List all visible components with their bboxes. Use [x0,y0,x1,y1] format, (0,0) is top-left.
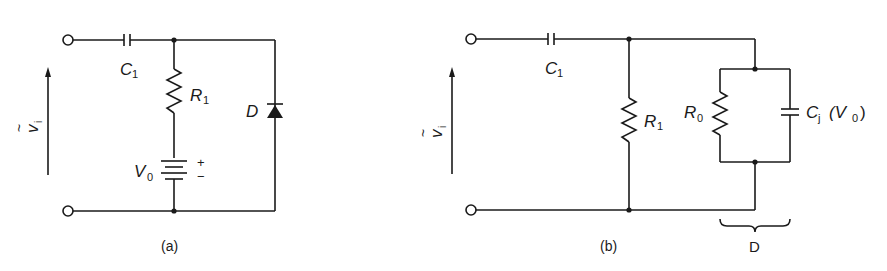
input-terminal-top [63,35,73,45]
input-voltage-label: v ~ i [11,121,44,133]
diode-bracket-label: D [749,238,760,255]
r0-label-sub: 0 [697,112,703,124]
capacitor-cj [781,109,799,115]
diode-brace [720,219,790,232]
r0-label: R [684,103,696,122]
cj-arg-label: (V [829,103,848,122]
c1-label-sub: 1 [557,67,563,79]
circuit-diagram: v ~ i C 1 R 1 V 0 + − D (a) [0,0,887,271]
panel-a: v ~ i C 1 R 1 V 0 + − D (a) [11,34,283,254]
cj-arg-sub: 0 [852,112,858,124]
svg-text:i: i [33,121,44,123]
arrow-head-icon [449,67,455,77]
diode-d [267,104,283,118]
junction-node [626,207,631,212]
battery-v0 [161,161,187,179]
svg-text:i: i [437,126,448,128]
diode-label: D [246,102,258,121]
input-terminal-bottom [63,206,73,216]
svg-text:~: ~ [11,124,27,132]
r1-label: R [644,112,656,131]
battery-plus-label: + [197,155,205,170]
input-terminal-top [466,34,476,44]
v0-label: V [134,162,147,181]
svg-text:~: ~ [415,129,431,137]
arrow-head-icon [45,67,51,77]
r1-label: R [190,86,202,105]
r1-label-sub: 1 [203,94,209,106]
cj-label-sub: j [817,112,820,124]
input-terminal-bottom [466,205,476,215]
r1-label-sub: 1 [657,120,663,132]
input-voltage-label: v ~ i [415,126,448,138]
capacitor-c1 [548,33,554,45]
battery-minus-label: − [197,169,205,184]
caption-b: (b) [600,238,617,254]
junction-node [171,208,176,213]
resistor-r1 [167,69,181,113]
resistor-r0 [713,92,727,135]
caption-a: (a) [161,238,178,254]
panel-b: v ~ i C 1 R 1 R 0 C j (V 0 ) D (b) [415,33,866,255]
v0-label-sub: 0 [147,171,153,183]
cj-arg-close: ) [860,103,866,122]
c1-label-sub: 1 [132,68,138,80]
capacitor-c1 [124,34,130,46]
resistor-r1 [622,98,636,142]
